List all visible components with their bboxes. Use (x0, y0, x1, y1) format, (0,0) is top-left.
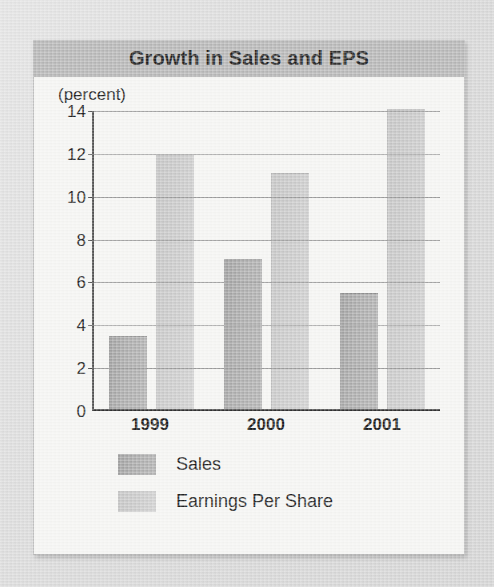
y-axis-tick-label: 14 (44, 103, 86, 120)
chart-card: Growth in Sales and EPS (percent) 024681… (33, 40, 465, 555)
page-title: Growth in Sales and EPS (129, 47, 369, 70)
plot-region: 02468101214 (34, 111, 466, 411)
legend-item-eps: Earnings Per Share (118, 486, 333, 517)
y-axis-tick-label: 4 (44, 317, 86, 334)
legend-label-sales: Sales (176, 454, 221, 475)
y-axis-tickmark (88, 240, 94, 241)
chart-title-band: Growth in Sales and EPS (34, 41, 464, 77)
y-axis-tick-label: 2 (44, 360, 86, 377)
plot-area (92, 111, 440, 411)
gridline (94, 240, 440, 241)
y-axis-tick-label: 8 (44, 231, 86, 248)
y-axis-tickmark (88, 282, 94, 283)
y-axis-tick-labels: 02468101214 (44, 111, 86, 411)
y-axis-tick-label: 0 (44, 403, 86, 420)
gridline (94, 368, 440, 369)
bar-group (94, 111, 209, 409)
y-axis-tickmark (88, 325, 94, 326)
y-axis-tick-label: 6 (44, 274, 86, 291)
y-axis-tickmark (88, 154, 94, 155)
bar-group (209, 111, 324, 409)
x-axis-category-label: 1999 (92, 415, 208, 435)
legend-item-sales: Sales (118, 449, 333, 480)
y-axis-tick-label: 12 (44, 145, 86, 162)
chart-body: (percent) 02468101214 199920002001 Sales… (34, 77, 464, 554)
x-axis-category-label: 2000 (208, 415, 324, 435)
legend-label-eps: Earnings Per Share (176, 491, 333, 512)
legend-swatch-eps-icon (118, 491, 156, 512)
y-axis-tickmark (88, 111, 94, 112)
bar-groups (94, 111, 440, 409)
gridline (94, 282, 440, 283)
bar-earnings-per-share-2000 (271, 173, 309, 409)
gridline (94, 111, 440, 112)
gridline (94, 197, 440, 198)
bar-sales-1999 (109, 336, 147, 409)
x-axis-category-label: 2001 (324, 415, 440, 435)
legend-swatch-sales-icon (118, 454, 156, 475)
y-axis-tick-label: 10 (44, 188, 86, 205)
y-axis-tickmark (88, 197, 94, 198)
x-axis-category-labels: 199920002001 (92, 415, 440, 435)
gridline (94, 325, 440, 326)
bar-group (325, 111, 440, 409)
chart-legend: Sales Earnings Per Share (118, 449, 333, 523)
bar-sales-2001 (340, 293, 378, 409)
y-axis-tickmark (88, 368, 94, 369)
gridline (94, 154, 440, 155)
